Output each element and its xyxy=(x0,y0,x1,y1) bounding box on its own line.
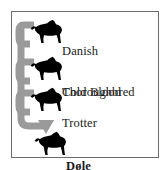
breed-ancestry-figure: Danish Cold Blood Thoroughbred Trotter D… xyxy=(0,0,168,170)
horse-silhouette-icon xyxy=(29,87,63,113)
breed-label-line1: Døle xyxy=(66,160,91,170)
breed-label-dole: Døle xyxy=(66,133,91,170)
horse-silhouette-icon xyxy=(29,19,63,45)
horse-silhouette-icon xyxy=(29,56,63,82)
breed-label-line1: Trotter xyxy=(62,117,97,131)
breed-label-line1: Danish xyxy=(62,45,121,59)
